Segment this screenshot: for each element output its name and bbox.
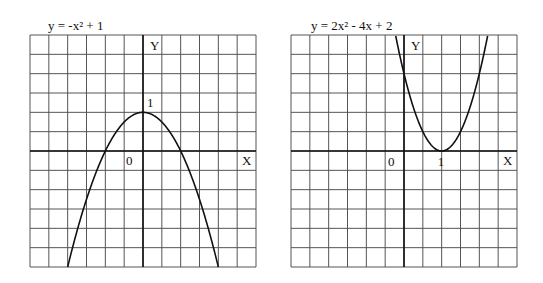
tick-label-x-1: 1 — [438, 154, 445, 169]
y-axis-label: Y — [150, 38, 160, 53]
graph-canvas: YX01YX01 — [0, 0, 543, 283]
y-axis-label: Y — [411, 38, 421, 53]
origin-label: 0 — [126, 153, 133, 168]
x-axis-label: X — [503, 153, 513, 168]
origin-label: 0 — [388, 154, 395, 169]
x-axis-label: X — [242, 153, 252, 168]
tick-label-y-1: 1 — [147, 95, 154, 110]
